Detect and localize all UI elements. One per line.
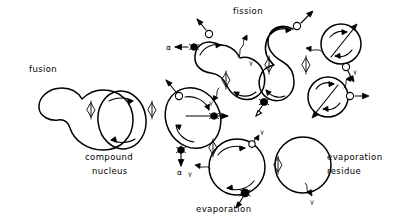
gamma-label-residue: γ [310, 198, 314, 206]
alpha-label-center-lower: α [177, 168, 182, 177]
alpha-particle-icon [241, 189, 249, 197]
gamma-label-fragment-lower: γ [353, 68, 357, 76]
alpha-emission-down [177, 146, 186, 166]
neutron-emission-fission-upleft [197, 19, 213, 38]
neutron-icon [175, 92, 182, 99]
gamma-emission-fission-lower [213, 88, 219, 101]
label-fission: fission [233, 6, 263, 16]
alpha-particle-icon [211, 113, 218, 120]
transition-chevron-2 [148, 101, 156, 119]
fusion-nucleus [39, 88, 133, 150]
gamma-emission-fission-upper [238, 35, 247, 57]
transition-chevron-5 [302, 56, 310, 74]
evaporation-residue-nucleus [275, 137, 331, 196]
gamma-label-evap-left: γ [188, 170, 192, 178]
nuclear-reaction-diagram: fusion fission compound nucleus evaporat… [0, 0, 401, 221]
label-evaporation-residue-line2: residue [327, 166, 361, 176]
gamma-label-fission-lower: γ [209, 99, 213, 107]
neutron-icon [293, 22, 300, 29]
alpha-label-left: α [166, 43, 171, 52]
alpha-particle-icon [178, 147, 185, 154]
gamma-label-evap-top: γ [260, 128, 264, 136]
alpha-emission-scission-bottom [256, 98, 269, 116]
fission-scission-nucleus [259, 26, 294, 100]
alpha-particle-icon [260, 98, 267, 105]
alpha-emission-left [175, 44, 199, 51]
fission-deforming-nucleus [195, 42, 265, 100]
neutron-emission-scission-top [293, 11, 313, 30]
label-evaporation-residue-line1: evaporation [327, 152, 382, 162]
transition-chevron-1 [87, 101, 95, 119]
label-fusion: fusion [29, 64, 57, 74]
label-compound-nucleus-line2: nucleus [92, 166, 128, 176]
diagram-canvas: fusion fission compound nucleus evaporat… [0, 0, 401, 221]
gamma-label-fission-upper: γ [249, 59, 253, 67]
compound-nucleus [94, 88, 150, 152]
label-compound-nucleus-line1: compound [85, 152, 133, 162]
fission-fragment-lower [308, 76, 369, 118]
neutron-icon [346, 92, 353, 99]
neutron-icon [205, 30, 212, 37]
label-evaporation: evaporation [196, 204, 251, 214]
neutron-icon [342, 63, 349, 70]
neutron-icon [249, 141, 255, 147]
